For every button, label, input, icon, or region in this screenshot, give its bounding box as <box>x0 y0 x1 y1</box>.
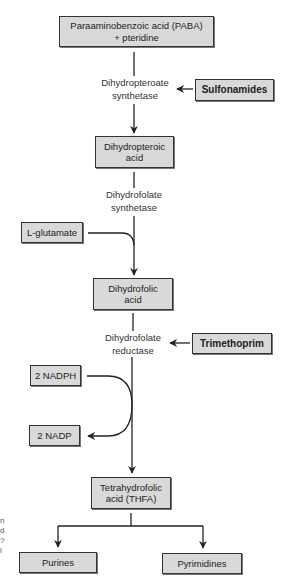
node-dihydrofolic-acid: Dihydrofolic acid <box>93 278 173 310</box>
inhibitor-trimethoprim: Trimethoprim <box>192 333 272 354</box>
node-dihydropteroic-acid: Dihydropteroic acid <box>95 136 174 168</box>
cofactor-2-nadph: 2 NADPH <box>30 365 81 386</box>
node-purines: Purines <box>19 552 97 573</box>
enzyme-dihydropteroate-synthetase: Dihydropteroate synthetase <box>96 77 174 102</box>
node-label: Paraaminobenzoic acid (PABA) <box>70 20 202 32</box>
inhibitor-sulfonamides: Sulfonamides <box>195 79 274 101</box>
enzyme-dihydrofolate-reductase: Dihydrofolate reductase <box>99 332 167 357</box>
margin-text-fragment: n d ? l <box>0 516 6 556</box>
node-label: + pteridine <box>70 32 202 44</box>
edge-l-glutamate-join <box>88 233 134 245</box>
cofactor-l-glutamate: L-glutamate <box>21 222 83 243</box>
edge-nadph-to-nadp <box>87 376 132 436</box>
enzyme-dihydrofolate-synthetase: Dihydrofolate synthetase <box>100 189 168 214</box>
node-paba-pteridine: Paraaminobenzoic acid (PABA) + pteridine <box>59 16 214 47</box>
node-tetrahydrofolic-acid: Tetrahydrofolic acid (THFA) <box>91 477 171 509</box>
node-pyrimidines: Pyrimidines <box>162 553 242 574</box>
cofactor-2-nadp: 2 NADP <box>29 425 80 446</box>
